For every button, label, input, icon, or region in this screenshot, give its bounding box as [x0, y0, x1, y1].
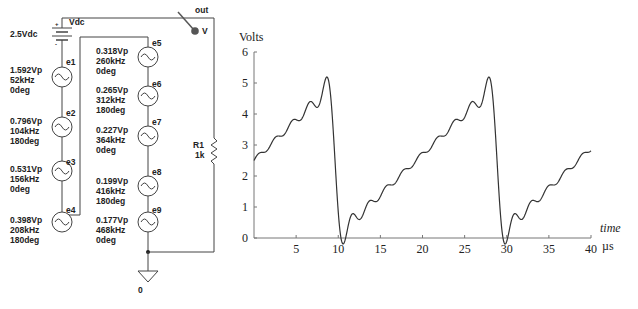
- source-e5: e5 0.318Vp 260kHz 0deg: [96, 38, 162, 76]
- probe-label: V: [202, 26, 208, 36]
- waveform-chart: Volts 0123456 510152025303540 time µs: [239, 30, 621, 256]
- svg-text:+: +: [55, 21, 59, 27]
- svg-text:e4: e4: [66, 205, 76, 215]
- source-e2: e2 0.796Vp 104kHz 180deg: [10, 108, 76, 146]
- svg-text:0.177Vp: 0.177Vp: [96, 215, 128, 225]
- svg-text:1.592Vp: 1.592Vp: [10, 65, 42, 75]
- y-tick-label: 1: [242, 200, 248, 214]
- source-e3: e3 0.531Vp 156kHz 0deg: [10, 157, 76, 194]
- svg-text:0.199Vp: 0.199Vp: [96, 176, 128, 186]
- svg-text:180deg: 180deg: [96, 105, 125, 115]
- voltage-probe: V: [178, 12, 208, 36]
- x-axis-unit: µs: [602, 239, 614, 253]
- svg-text:e5: e5: [152, 38, 162, 48]
- source-e8: e8 0.199Vp 416kHz 180deg: [96, 167, 162, 206]
- x-tick-label: 20: [417, 242, 429, 256]
- source-e6: e6 0.265Vp 312kHz 180deg: [96, 79, 162, 115]
- resistor-name: R1: [193, 140, 204, 150]
- svg-text:0.265Vp: 0.265Vp: [96, 85, 128, 95]
- x-tick-label: 40: [585, 242, 597, 256]
- svg-text:e3: e3: [66, 157, 76, 167]
- svg-text:e6: e6: [152, 79, 162, 89]
- svg-text:180deg: 180deg: [10, 136, 39, 146]
- net-label-out: out: [195, 5, 208, 15]
- ground-icon: [138, 271, 158, 282]
- source-e9: e9 0.177Vp 468kHz 0deg: [96, 205, 162, 245]
- svg-text:e9: e9: [152, 205, 162, 215]
- y-tick-label: 0: [242, 231, 248, 245]
- x-axis-label: time: [600, 221, 621, 235]
- y-tick-label: 6: [242, 45, 248, 59]
- source-e4: e4 0.398Vp 208kHz 180deg: [10, 205, 76, 245]
- y-ticks: 0123456: [242, 45, 257, 245]
- svg-text:0deg: 0deg: [10, 184, 30, 194]
- source-e1: e1 1.592Vp 52kHz 0deg: [10, 57, 76, 95]
- dc-source-name: Vdc: [69, 17, 85, 27]
- svg-text:364kHz: 364kHz: [96, 135, 125, 145]
- source-e7: e7 0.227Vp 364kHz 0deg: [96, 117, 162, 155]
- x-tick-label: 15: [374, 242, 386, 256]
- x-tick-label: 5: [293, 242, 299, 256]
- svg-text:312kHz: 312kHz: [96, 95, 125, 105]
- svg-text:180deg: 180deg: [96, 196, 125, 206]
- svg-text:e1: e1: [66, 57, 76, 67]
- resistor-symbol: [210, 138, 218, 164]
- svg-text:e7: e7: [152, 117, 162, 127]
- svg-text:208kHz: 208kHz: [10, 225, 39, 235]
- circuit-schematic: + - Vdc 2.5Vdc V out R1 1k 0 e1: [10, 5, 218, 295]
- svg-text:0deg: 0deg: [10, 85, 30, 95]
- svg-text:0.531Vp: 0.531Vp: [10, 164, 42, 174]
- figure: + - Vdc 2.5Vdc V out R1 1k 0 e1: [0, 0, 638, 309]
- svg-text:104kHz: 104kHz: [10, 126, 39, 136]
- x-tick-label: 25: [459, 242, 471, 256]
- x-tick-label: 30: [501, 242, 513, 256]
- y-tick-label: 4: [242, 107, 248, 121]
- svg-text:e2: e2: [66, 108, 76, 118]
- svg-text:52kHz: 52kHz: [10, 75, 35, 85]
- x-tick-label: 35: [543, 242, 555, 256]
- svg-text:180deg: 180deg: [10, 235, 39, 245]
- resistor-value: 1k: [195, 150, 205, 160]
- svg-text:-: -: [55, 41, 57, 47]
- dc-source-value: 2.5Vdc: [10, 29, 38, 39]
- svg-text:156kHz: 156kHz: [10, 174, 39, 184]
- svg-text:0.398Vp: 0.398Vp: [10, 215, 42, 225]
- y-tick-label: 2: [242, 169, 248, 183]
- svg-text:0.796Vp: 0.796Vp: [10, 116, 42, 126]
- voltage-waveform: [254, 77, 591, 244]
- ground-label: 0: [138, 285, 143, 295]
- y-axis-label: Volts: [239, 30, 264, 44]
- svg-text:0deg: 0deg: [96, 66, 116, 76]
- svg-text:e8: e8: [152, 167, 162, 177]
- svg-text:468kHz: 468kHz: [96, 225, 125, 235]
- svg-text:0deg: 0deg: [96, 235, 116, 245]
- svg-text:0deg: 0deg: [96, 145, 116, 155]
- svg-text:260kHz: 260kHz: [96, 56, 125, 66]
- svg-text:416kHz: 416kHz: [96, 186, 125, 196]
- svg-text:0.227Vp: 0.227Vp: [96, 125, 128, 135]
- y-tick-label: 5: [242, 76, 248, 90]
- svg-text:0.318Vp: 0.318Vp: [96, 46, 128, 56]
- y-tick-label: 3: [242, 138, 248, 152]
